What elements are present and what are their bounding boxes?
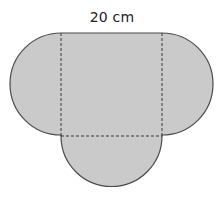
composite-shape-figure	[0, 0, 224, 208]
composite-shape-outline	[10, 33, 213, 187]
